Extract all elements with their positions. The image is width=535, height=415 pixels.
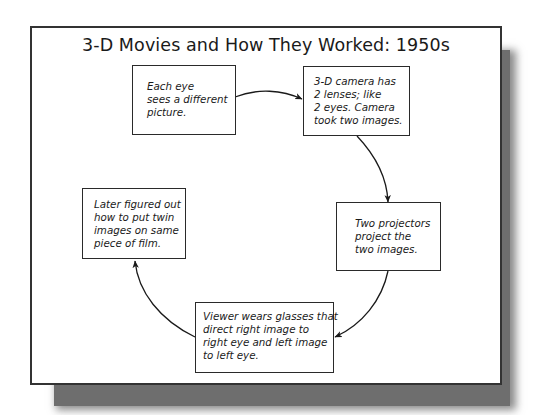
node-text: two images. <box>355 243 440 256</box>
node-twin-images-film: Later figured out how to put twin images… <box>82 188 186 259</box>
node-viewer-glasses: Viewer wears glasses that direct right i… <box>195 302 334 373</box>
node-text: sees a different <box>147 93 235 106</box>
node-text: Viewer wears glasses that <box>203 310 333 323</box>
node-text: Each eye <box>147 80 235 93</box>
node-each-eye: Each eye sees a different picture. <box>132 65 236 135</box>
node-3d-camera: 3-D camera has 2 lenses; like 2 eyes. Ca… <box>303 66 410 136</box>
node-two-projectors: Two projectors project the two images. <box>336 202 441 271</box>
node-text: images on same <box>94 224 185 237</box>
node-text: 3-D camera has <box>314 75 409 88</box>
node-text: direct right image to <box>203 323 333 336</box>
node-text: to left eye. <box>203 349 333 362</box>
node-text: project the <box>355 230 440 243</box>
node-text: 2 lenses; like <box>314 88 409 101</box>
diagram-title: 3-D Movies and How They Worked: 1950s <box>32 35 500 55</box>
node-text: right eye and left image <box>203 336 333 349</box>
node-text: Later figured out <box>94 198 185 211</box>
node-text: Two projectors <box>355 217 440 230</box>
node-text: picture. <box>147 106 235 119</box>
node-text: took two images. <box>314 114 409 127</box>
node-text: 2 eyes. Camera <box>314 101 409 114</box>
node-text: piece of film. <box>94 237 185 250</box>
node-text: how to put twin <box>94 211 185 224</box>
